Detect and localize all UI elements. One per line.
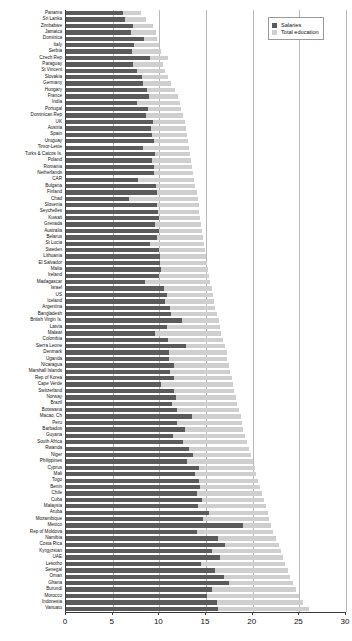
legend-item-total-education: Total education [272, 29, 319, 35]
category-label: Rep of Moldova [30, 530, 62, 535]
category-label: Ghana [48, 581, 62, 586]
category-label: India [52, 100, 62, 105]
category-label: Malta [51, 267, 62, 272]
category-label: Cuba [51, 498, 62, 503]
x-tick [252, 612, 253, 615]
category-label: Austria [48, 126, 62, 131]
category-label: Serbia [49, 49, 62, 54]
category-label: Switzerland [38, 389, 62, 394]
category-label: Madagascar [37, 280, 62, 285]
category-label: Uruguay [45, 139, 62, 144]
category-label: UAE [53, 555, 62, 560]
category-label: Rwanda [45, 446, 62, 451]
x-tick-label: 0 [63, 617, 67, 626]
category-label: Senegal [45, 568, 62, 573]
category-label: Oman [49, 574, 62, 579]
category-label: Sweden [45, 248, 62, 253]
category-label: Panama [45, 11, 62, 16]
category-label: Seychelles [40, 209, 62, 214]
category-label: Germany [43, 81, 62, 86]
category-label: Marshall Islands [29, 369, 62, 374]
category-label: Benin [50, 485, 62, 490]
category-label: UK [56, 120, 62, 125]
category-label: Sri Lanka [43, 17, 62, 22]
x-tick-label: 10 [154, 617, 163, 626]
category-label: Italy [54, 43, 62, 48]
category-label: Sierra Leone [36, 344, 62, 349]
category-label: British Virgin Is. [30, 318, 62, 323]
category-label: Grenada [44, 222, 62, 227]
category-label: Aruba [50, 510, 62, 515]
category-label: Mali [54, 472, 62, 477]
category-label: Turks & Caicos Is. [25, 152, 62, 157]
category-label: Latvia [50, 325, 62, 330]
category-label: Poland [48, 158, 62, 163]
category-label: South Africa [37, 440, 62, 445]
category-label: St Lucia [45, 241, 62, 246]
category-label: Namibia [45, 536, 62, 541]
category-label: US [56, 293, 62, 298]
legend-label-salaries: Salaries [281, 22, 301, 28]
category-label: Uganda [46, 357, 62, 362]
category-label: Lithuania [43, 254, 62, 259]
x-tick [112, 612, 113, 615]
category-label: Mozambique [36, 517, 62, 522]
category-label: Cyprus [47, 466, 62, 471]
category-label: Costa Rica [40, 542, 62, 547]
category-label: Argentina [42, 305, 62, 310]
category-label: Nicaragua [41, 363, 62, 368]
category-label: CAR [52, 177, 62, 182]
legend: Salaries Total education [268, 17, 324, 40]
category-label: Finland [47, 190, 62, 195]
x-tick-label: 30 [341, 617, 350, 626]
x-tick [298, 612, 299, 615]
category-label: Bangladesh [38, 312, 62, 317]
category-label: Brazil [51, 401, 63, 406]
category-label: Kyrgyzstan [39, 549, 62, 554]
legend-item-salaries: Salaries [272, 22, 319, 28]
x-tick [345, 612, 346, 615]
category-label: Paraguay [42, 62, 62, 67]
category-label: Rep of Korea [35, 376, 62, 381]
category-label: Hungary [45, 88, 62, 93]
x-tick-label: 25 [294, 617, 303, 626]
category-label: St Vincent [41, 68, 62, 73]
category-label: Indonesia [42, 600, 62, 605]
category-label: Spain [50, 132, 62, 137]
category-label: Australia [44, 229, 62, 234]
category-label: Jamaica [45, 30, 62, 35]
category-label: Philippines [40, 459, 62, 464]
x-tick [158, 612, 159, 615]
category-label: Iceland [47, 299, 62, 304]
category-label: Guyana [46, 433, 62, 438]
category-label: Romania [44, 165, 62, 170]
category-label: France [48, 94, 62, 99]
category-label: Macao, Ch [40, 414, 62, 419]
category-label: Lesotho [46, 562, 62, 567]
legend-label-total-education: Total education [281, 29, 319, 35]
x-tick-label: 15 [201, 617, 210, 626]
category-label: Cape Verde [38, 382, 62, 387]
category-label: Denmark [43, 350, 62, 355]
category-label: Kuwait [48, 216, 62, 221]
category-label: Mexico [47, 523, 62, 528]
category-label: Belarus [46, 235, 62, 240]
category-label: Slovenia [44, 203, 62, 208]
category-label: Chile [52, 491, 62, 496]
category-label: Malaysia [44, 504, 62, 509]
category-label: Netherlands [37, 171, 62, 176]
category-label: Timor-Leste [38, 145, 62, 150]
category-label: Zimbabwe [41, 24, 62, 29]
category-label: Botswana [42, 408, 62, 413]
category-label: Bulgaria [45, 184, 62, 189]
category-label: Czech Rep [39, 56, 62, 61]
legend-swatch-total-education [272, 30, 277, 35]
category-label: Chad [51, 197, 62, 202]
x-tick-label: 5 [109, 617, 113, 626]
category-label: Niger [51, 453, 62, 458]
category-label: Portugal [45, 107, 62, 112]
category-label: Malawi [48, 331, 62, 336]
category-label: Colombia [43, 337, 62, 342]
x-tick-label: 20 [247, 617, 256, 626]
category-label: Israel [51, 286, 62, 291]
